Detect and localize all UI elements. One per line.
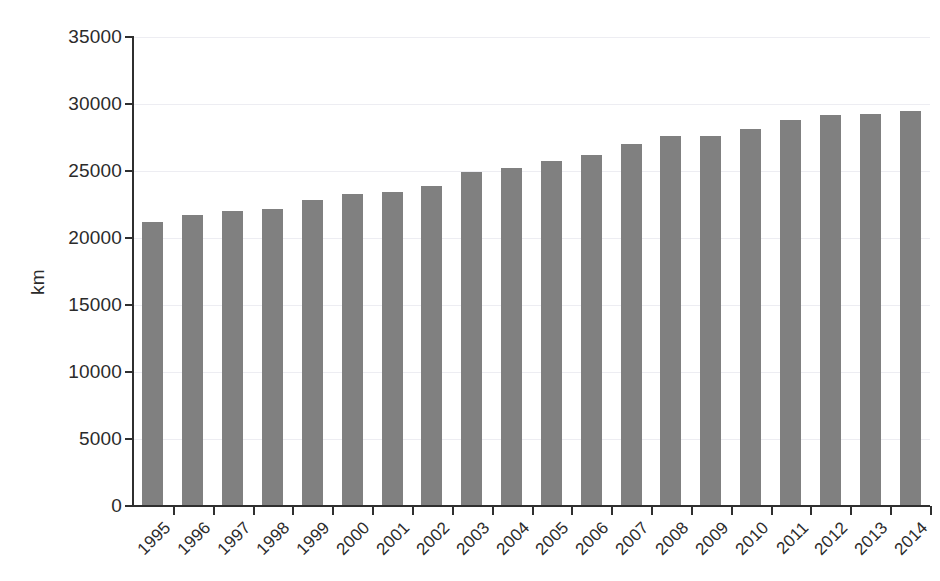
x-axis-tick-mark	[452, 506, 454, 515]
x-axis-tick-mark	[611, 506, 613, 515]
x-axis-tick-mark	[930, 506, 932, 515]
y-axis-tick-mark	[125, 103, 134, 105]
x-axis-tick-mark	[810, 506, 812, 515]
x-axis-tick-mark	[731, 506, 733, 515]
x-axis-tick-mark	[771, 506, 773, 515]
x-axis-tick-mark	[213, 506, 215, 515]
y-axis-tick-mark	[125, 36, 134, 38]
y-axis-tick-mark	[125, 304, 134, 306]
x-axis-tick-mark	[651, 506, 653, 515]
x-axis-tick-mark	[292, 506, 294, 515]
x-axis-tick-mark	[332, 506, 334, 515]
x-axis-tick-mark	[532, 506, 534, 515]
x-axis-tick-mark	[492, 506, 494, 515]
x-axis-tick-mark	[691, 506, 693, 515]
y-axis-tick-mark	[125, 505, 134, 507]
bar-chart: km 05000100001500020000250003000035000 1…	[0, 0, 940, 581]
y-axis-tick-mark	[125, 170, 134, 172]
x-axis-tick-labels: 1995199619971998199920002001200220032004…	[0, 0, 940, 581]
x-axis-tick-mark	[253, 506, 255, 515]
x-axis-tick-mark	[890, 506, 892, 515]
x-axis-tick-mark	[372, 506, 374, 515]
y-axis-tick-mark	[125, 438, 134, 440]
x-axis-tick-mark	[173, 506, 175, 515]
x-axis-tick-mark	[412, 506, 414, 515]
y-axis-tick-mark	[125, 371, 134, 373]
x-axis-tick-mark	[571, 506, 573, 515]
x-axis-tick-mark	[850, 506, 852, 515]
y-axis-tick-mark	[125, 237, 134, 239]
